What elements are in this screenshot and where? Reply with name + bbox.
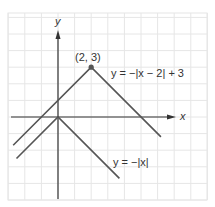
- x-axis-label: x: [179, 110, 186, 122]
- equation-label-1: y = −|x − 2| + 3: [111, 67, 184, 79]
- grid: [8, 13, 207, 200]
- equation-label-2: y = −|x|: [113, 156, 149, 168]
- vertex-label: (2, 3): [75, 51, 101, 63]
- absolute-value-graph: (2, 3)y = −|x − 2| + 3y = −|x|xy: [0, 0, 215, 207]
- y-axis-label: y: [54, 15, 62, 27]
- vertex-point: [89, 65, 94, 70]
